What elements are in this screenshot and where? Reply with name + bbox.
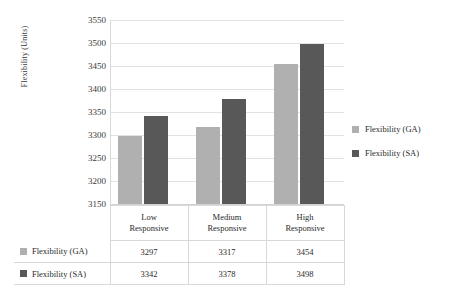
cat-line-1: Low [111,212,188,223]
bar-ga-high [274,64,298,204]
cat-line-1: High [267,212,344,223]
table-cell-sa-low: 3342 [110,263,188,285]
table-cell-sa-medium: 3378 [188,263,266,285]
y-tick-label: 3350 [66,108,106,117]
table-cell-sa-high: 3498 [266,263,344,285]
table-swatch-icon-sa [20,270,27,277]
bar-sa-high [300,44,324,204]
table-swatch-icon-ga [20,248,27,255]
cat-line-2: Responsive [111,223,188,234]
y-tick-label: 3250 [66,154,106,163]
table-col-header-medium: Medium Responsive [188,206,266,241]
cat-line-1: Medium [189,212,266,223]
table-col-header-low: Low Responsive [110,206,188,241]
bar-ga-low [118,136,142,204]
bar-group-high [266,20,344,204]
chart-figure: Flexibility (Units) 3550 3500 3450 3400 … [0,0,452,300]
table-row-label-text: Flexibility (GA) [32,246,87,256]
table-row-label-ga: Flexibility (GA) [14,241,110,263]
table-cell-ga-high: 3454 [266,241,344,263]
bar-sa-low [144,116,168,204]
table-row: Flexibility (SA) 3342 3378 3498 [14,263,344,285]
chart-legend: Flexibility (GA) Flexibility (SA) [352,124,452,172]
table-cell-ga-medium: 3317 [188,241,266,263]
table-row: Flexibility (GA) 3297 3317 3454 [14,241,344,263]
bar-group-low [110,20,188,204]
bar-series-container [110,20,344,204]
data-table: Low Responsive Medium Responsive High Re… [14,205,345,285]
y-tick-label: 3200 [66,177,106,186]
cat-line-2: Responsive [267,223,344,234]
legend-item-sa: Flexibility (SA) [352,148,452,158]
bar-ga-medium [196,127,220,204]
table-cell-ga-low: 3297 [110,241,188,263]
table-row-label-text: Flexibility (SA) [32,269,86,279]
table-header-row: Low Responsive Medium Responsive High Re… [14,206,344,241]
y-tick-label: 3500 [66,39,106,48]
legend-swatch-icon-ga [352,126,359,133]
cat-line-2: Responsive [189,223,266,234]
y-tick-label: 3450 [66,62,106,71]
y-axis-title: Flexibility (Units) [20,0,29,127]
legend-label-sa: Flexibility (SA) [365,148,419,158]
legend-item-ga: Flexibility (GA) [352,124,452,134]
plot-area: Flexibility (Units) 3550 3500 3450 3400 … [0,0,452,215]
y-axis-tick-labels: 3550 3500 3450 3400 3350 3300 3250 3200 … [62,0,106,215]
y-tick-label: 3300 [66,131,106,140]
y-tick-label: 3400 [66,85,106,94]
table-col-header-high: High Responsive [266,206,344,241]
bar-group-medium [188,20,266,204]
legend-label-ga: Flexibility (GA) [365,124,420,134]
y-tick-label: 3550 [66,16,106,25]
legend-swatch-icon-sa [352,150,359,157]
table-row-label-sa: Flexibility (SA) [14,263,110,285]
table-corner-cell [14,206,110,241]
bar-sa-medium [222,99,246,204]
